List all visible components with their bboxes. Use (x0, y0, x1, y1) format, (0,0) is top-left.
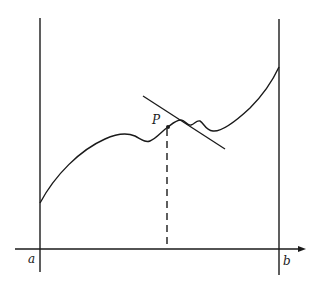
x-axis-arrowhead (298, 246, 306, 252)
label-a: a (28, 252, 35, 266)
point-p-marker (166, 125, 170, 129)
label-b: b (283, 254, 291, 268)
label-p: P (152, 113, 160, 127)
function-curve (40, 67, 279, 203)
diagram-canvas (0, 0, 320, 291)
